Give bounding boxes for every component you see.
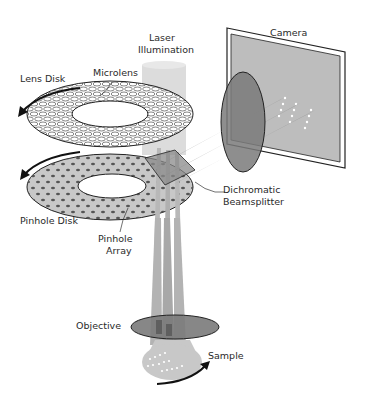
tube-lens — [221, 72, 265, 172]
label-objective: Objective — [76, 320, 121, 331]
label-pinhole-array-2: Array — [106, 245, 132, 256]
label-pinhole-disk: Pinhole Disk — [20, 215, 78, 226]
label-pinhole-array-1: Pinhole — [98, 233, 133, 244]
objective-lens — [131, 315, 219, 339]
label-sample: Sample — [208, 350, 244, 361]
label-lens-disk: Lens Disk — [20, 73, 66, 84]
label-dichromatic-1: Dichromatic — [223, 184, 280, 195]
lens-disk — [21, 81, 195, 147]
label-dichromatic-2: Beamsplitter — [223, 196, 284, 207]
label-laser-1: Laser — [149, 32, 175, 43]
label-laser-2: Illumination — [138, 44, 194, 55]
diagram-canvas: Laser Illumination Camera Lens Disk Micr… — [0, 0, 365, 409]
label-microlens: Microlens — [93, 67, 138, 78]
label-camera: Camera — [270, 27, 307, 38]
